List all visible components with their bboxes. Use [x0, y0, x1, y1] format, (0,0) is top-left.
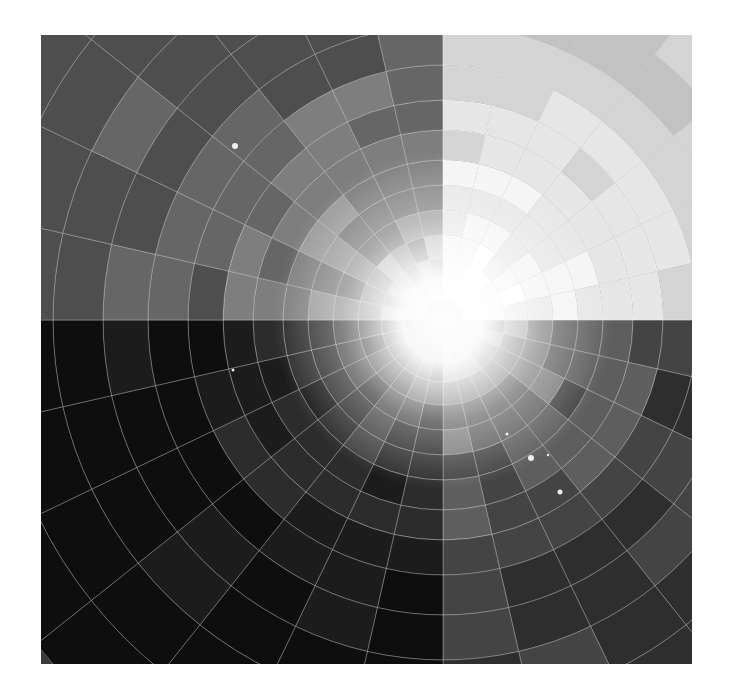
star-sparkle — [506, 433, 509, 436]
ring-segment — [367, 608, 443, 660]
ring-segment — [386, 65, 443, 106]
ring-segment — [188, 320, 229, 377]
star-sparkle — [232, 369, 235, 372]
burst-graphic — [41, 35, 692, 664]
ring-segment — [628, 320, 663, 369]
ring-segment — [443, 569, 509, 615]
ring-segment — [377, 569, 443, 615]
ring-segment — [53, 320, 112, 407]
star-sparkle — [558, 490, 563, 495]
star-sparkle — [547, 454, 549, 456]
ring-segment — [443, 505, 492, 540]
ring-segment — [223, 271, 258, 320]
star-sparkle — [232, 143, 238, 149]
ring-segment — [657, 263, 692, 320]
ring-segment — [148, 254, 194, 320]
ring-segment — [53, 233, 112, 320]
ring-segment — [103, 244, 155, 320]
ring-segment — [443, 534, 500, 575]
ring-segment — [188, 263, 229, 320]
ring-segment — [443, 100, 492, 135]
ring-segment — [394, 505, 443, 540]
ring-segment — [443, 608, 519, 660]
ring-segment — [103, 320, 155, 396]
radial-burst-artwork — [41, 35, 692, 664]
ring-segment — [394, 100, 443, 135]
ring-segment — [657, 320, 692, 377]
ring-segment — [386, 534, 443, 575]
ring-segment — [628, 271, 663, 320]
center-glow — [273, 150, 613, 490]
ring-segment — [443, 65, 500, 106]
ring-segment — [148, 320, 194, 386]
ring-segment — [223, 320, 258, 369]
star-sparkle — [528, 455, 534, 461]
